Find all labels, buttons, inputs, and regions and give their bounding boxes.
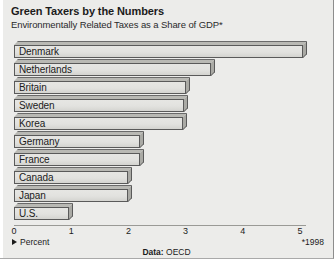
bar-category-label: Denmark bbox=[19, 45, 59, 58]
bar-side-face bbox=[184, 95, 188, 112]
bar-row: U.S. bbox=[14, 203, 319, 221]
bar-category-label: Britain bbox=[19, 81, 47, 94]
bar-row: Netherlands bbox=[14, 59, 319, 77]
bar-row: Canada bbox=[14, 167, 319, 185]
x-tick-label: 3 bbox=[183, 226, 188, 236]
footnote: *1998 bbox=[302, 237, 324, 247]
bar-row: Sweden bbox=[14, 95, 319, 113]
bar-row: Japan bbox=[14, 185, 319, 203]
source-prefix: Data: bbox=[142, 247, 163, 257]
legend-label: Percent bbox=[20, 237, 49, 247]
bar-category-label: U.S. bbox=[19, 207, 38, 220]
bar-category-label: Korea bbox=[19, 117, 45, 130]
bar-category-label: Netherlands bbox=[19, 63, 72, 76]
x-tick-label: 5 bbox=[297, 226, 302, 236]
bar-row: Germany bbox=[14, 131, 319, 149]
bar-category-label: France bbox=[19, 153, 50, 166]
bar-side-face bbox=[140, 131, 144, 148]
bar-side-face bbox=[211, 59, 215, 76]
bar-row: France bbox=[14, 149, 319, 167]
chart-subtitle: Environmentally Related Taxes as a Share… bbox=[11, 19, 223, 30]
x-axis-line bbox=[14, 225, 306, 226]
chart-figure: Green Taxers by the Numbers Environmenta… bbox=[0, 0, 334, 259]
bar-side-face bbox=[183, 113, 187, 130]
plot-area: DenmarkNetherlandsBritainSwedenKoreaGerm… bbox=[14, 41, 319, 225]
bar-category-label: Sweden bbox=[19, 99, 55, 112]
x-tick-label: 4 bbox=[240, 226, 245, 236]
bar-side-face bbox=[303, 41, 307, 58]
bar-row: Britain bbox=[14, 77, 319, 95]
bar-side-face bbox=[128, 185, 132, 202]
bar-category-label: Germany bbox=[19, 135, 59, 148]
source-value: OECD bbox=[166, 247, 191, 257]
bar-row: Korea bbox=[14, 113, 319, 131]
legend-marker-icon bbox=[12, 239, 17, 245]
source-note: Data: OECD bbox=[0, 247, 333, 257]
bar-side-face bbox=[186, 77, 190, 94]
bar-side-face bbox=[69, 203, 73, 220]
bar-side-face bbox=[128, 167, 132, 184]
bar-category-label: Canada bbox=[19, 171, 53, 184]
axis-legend: Percent bbox=[12, 237, 49, 247]
bar-row: Denmark bbox=[14, 41, 319, 59]
bar-side-face bbox=[140, 149, 144, 166]
x-tick-label: 1 bbox=[69, 226, 74, 236]
x-tick-label: 2 bbox=[126, 226, 131, 236]
chart-title: Green Taxers by the Numbers bbox=[11, 5, 164, 17]
x-tick-label: 0 bbox=[11, 226, 16, 236]
bar-category-label: Japan bbox=[19, 189, 46, 202]
